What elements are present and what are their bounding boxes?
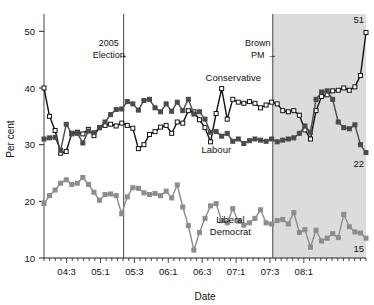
data-point-marker (53, 135, 57, 139)
data-point-marker (270, 222, 274, 226)
data-point-marker (109, 192, 113, 196)
data-point-marker (320, 239, 324, 243)
y-axis-tick-label: 20 (24, 196, 35, 207)
data-point-marker (170, 196, 174, 200)
data-point-marker (175, 120, 179, 124)
data-point-marker (308, 137, 312, 141)
data-point-marker (275, 219, 279, 223)
data-point-marker (259, 208, 263, 212)
data-point-marker (231, 139, 235, 143)
data-point-marker (281, 138, 285, 142)
data-point-marker (209, 130, 213, 134)
data-point-marker (347, 88, 351, 92)
data-point-marker (53, 129, 57, 133)
data-point-marker (175, 100, 179, 104)
data-point-marker (42, 202, 46, 206)
data-point-marker (242, 101, 246, 105)
series-label-labour: Labour (202, 144, 232, 155)
data-point-marker (197, 231, 201, 235)
data-point-marker (353, 123, 357, 127)
data-point-marker (120, 107, 124, 111)
data-point-marker (325, 89, 329, 93)
data-point-marker (159, 194, 163, 198)
y-axis-title: Per cent (5, 120, 16, 157)
data-point-marker (292, 109, 296, 113)
data-point-marker (308, 245, 312, 249)
data-point-marker (142, 143, 146, 147)
data-point-marker (364, 30, 368, 34)
x-axis-title: Date (194, 291, 216, 302)
data-point-marker (314, 97, 318, 101)
data-point-marker (181, 109, 185, 113)
data-point-marker (92, 190, 96, 194)
data-point-marker (103, 120, 107, 124)
shaded-rect (273, 14, 366, 258)
data-point-marker (75, 131, 79, 135)
data-point-marker (286, 137, 290, 141)
data-point-marker (286, 222, 290, 226)
data-point-marker (275, 140, 279, 144)
x-axis-tick-label: 04:3 (57, 266, 76, 277)
data-point-marker (136, 108, 140, 112)
data-point-marker (170, 109, 174, 113)
data-point-marker (136, 147, 140, 151)
data-point-marker (214, 130, 218, 134)
data-point-marker (358, 143, 362, 147)
data-point-marker (320, 90, 324, 94)
data-point-marker (320, 95, 324, 99)
data-point-marker (125, 123, 129, 127)
data-point-marker (114, 194, 118, 198)
data-point-marker (48, 194, 52, 198)
data-point-marker (109, 113, 113, 117)
data-point-marker (347, 127, 351, 131)
end-value-conservative: 51 (353, 14, 364, 25)
data-point-marker (225, 131, 229, 135)
data-point-marker (347, 225, 351, 229)
data-point-marker (292, 136, 296, 140)
data-point-marker (131, 186, 135, 190)
data-point-marker (270, 100, 274, 104)
data-point-marker (153, 130, 157, 134)
data-point-marker (342, 86, 346, 90)
annotation-election-2005-arrow: → (119, 50, 128, 60)
x-axis-tick-label: 07:3 (261, 266, 280, 277)
data-point-marker (59, 181, 63, 185)
data-point-marker (53, 188, 57, 192)
data-point-marker (98, 198, 102, 202)
data-point-marker (114, 124, 118, 128)
data-point-marker (86, 182, 90, 186)
data-point-marker (209, 204, 213, 208)
data-point-marker (336, 120, 340, 124)
data-point-marker (259, 138, 263, 142)
data-point-marker (197, 118, 201, 122)
data-point-marker (70, 182, 74, 186)
data-point-marker (297, 113, 301, 117)
data-point-marker (253, 216, 257, 220)
data-point-marker (159, 110, 163, 114)
data-point-marker (120, 212, 124, 216)
data-point-marker (220, 134, 224, 138)
data-point-marker (164, 102, 168, 106)
data-point-marker (303, 228, 307, 232)
data-point-marker (131, 102, 135, 106)
data-point-marker (70, 132, 74, 136)
data-point-marker (192, 248, 196, 252)
data-point-marker (253, 101, 257, 105)
data-point-marker (186, 97, 190, 101)
data-point-marker (42, 86, 46, 90)
poll-trend-chart: 102030405004:305:105:306:106:307:107:308… (0, 0, 374, 305)
data-point-marker (259, 106, 263, 110)
data-point-marker (103, 193, 107, 197)
data-point-marker (342, 212, 346, 216)
data-point-marker (220, 87, 224, 91)
data-point-marker (114, 108, 118, 112)
data-point-marker (92, 131, 96, 135)
data-point-marker (297, 231, 301, 235)
data-point-marker (264, 139, 268, 143)
data-point-marker (247, 139, 251, 143)
data-point-marker (353, 85, 357, 89)
x-axis-tick-label: 05:1 (91, 266, 110, 277)
data-point-marker (353, 230, 357, 234)
data-point-marker (364, 151, 368, 155)
data-point-marker (336, 236, 340, 240)
